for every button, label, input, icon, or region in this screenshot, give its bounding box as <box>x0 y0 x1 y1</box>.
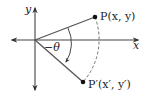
angle-arc <box>66 28 71 62</box>
dashed-rotation-arc <box>83 17 99 82</box>
ray-to-p <box>35 17 95 40</box>
point-p-prime-label: P′(x′, y′) <box>88 78 131 91</box>
rotation-diagram: y x P(x, y) P′(x′, y′) −θ <box>0 0 149 96</box>
y-axis-label: y <box>24 3 32 16</box>
angle-label: −θ <box>44 41 60 54</box>
point-p-prime <box>81 80 86 85</box>
x-axis-label: x <box>133 39 140 52</box>
point-p <box>93 15 98 20</box>
point-p-label: P(x, y) <box>100 10 135 23</box>
